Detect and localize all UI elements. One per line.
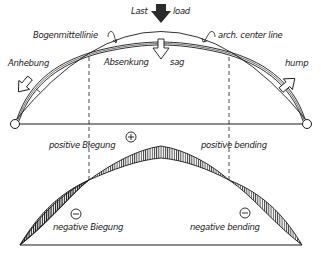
centerline-pointer-right-icon (204, 31, 215, 42)
left-support-hinge (11, 120, 20, 129)
bottom-panel: positive Biegung positive bending negati… (20, 132, 302, 245)
centerline-label-en: arch. center line (218, 30, 283, 40)
sag-label-en: sag (170, 57, 185, 67)
minus-sign-right-icon (240, 208, 250, 218)
negative-label-en: negative bending (190, 222, 261, 232)
positive-bending-region (89, 146, 229, 180)
negative-label-de: negative Biegung (53, 222, 124, 232)
rise-label-de: Anhebung (7, 58, 50, 68)
arch-bending-diagram: Last load Absenkung sag Bogenmittellinie… (0, 0, 322, 259)
rise-label-en: hump (285, 58, 308, 68)
load-arrow-icon (151, 4, 171, 23)
positive-label-de: positive Biegung (48, 140, 116, 150)
right-support-hinge (303, 120, 312, 129)
load-label-en: load (173, 6, 191, 16)
rise-tick-left (36, 89, 40, 92)
positive-label-en: positive bending (200, 140, 268, 150)
centerline-label-de: Bogenmittellinie (33, 30, 98, 40)
plus-sign-icon (126, 132, 136, 142)
sag-label-de: Absenkung (103, 57, 150, 67)
load-label-de: Last (131, 6, 148, 16)
minus-sign-left-icon (71, 209, 81, 219)
